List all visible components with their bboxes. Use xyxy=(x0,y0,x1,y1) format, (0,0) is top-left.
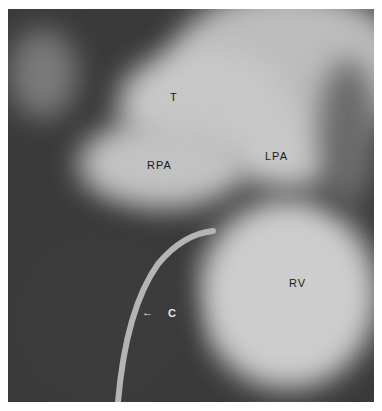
label-rv: RV xyxy=(289,277,306,289)
label-rpa: RPA xyxy=(147,159,172,171)
catheter xyxy=(8,9,374,402)
label-catheter: C xyxy=(168,307,176,319)
angiogram-image: T RPA LPA RV ← C xyxy=(8,9,374,402)
catheter-arrow-icon: ← xyxy=(142,306,153,318)
label-t: T xyxy=(170,91,178,103)
label-lpa: LPA xyxy=(265,150,288,162)
